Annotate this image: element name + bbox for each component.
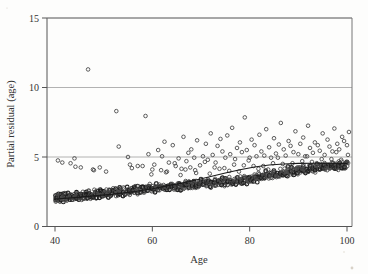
x-axis-label: Age: [190, 254, 208, 265]
scatter-plot-canvas: 406080100 051015 Age Partial residual (a…: [0, 0, 368, 274]
partial-residual-plot-figure: 406080100 051015 Age Partial residual (a…: [0, 0, 368, 274]
x-tick-label: 100: [340, 235, 355, 246]
y-tick-label: 0: [34, 221, 39, 232]
y-tick-label: 10: [29, 82, 39, 93]
y-tick-label: 5: [34, 152, 39, 163]
y-axis-label: Partial residual (age): [5, 80, 17, 168]
plot-background: [0, 0, 368, 274]
x-tick-label: 40: [50, 235, 60, 246]
x-tick-label: 80: [245, 235, 255, 246]
y-tick-label: 15: [29, 13, 39, 24]
x-tick-label: 60: [147, 235, 157, 246]
